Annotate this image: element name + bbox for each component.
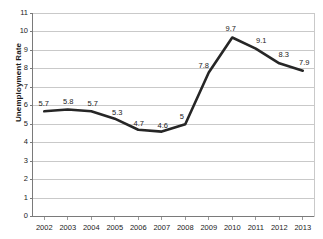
y-axis-tick-label: 2	[6, 174, 28, 183]
y-axis-tick-label: 3	[6, 156, 28, 165]
data-point-label: 7.9	[294, 58, 314, 67]
data-point-label: 5.7	[34, 99, 54, 108]
chart-plot-area	[0, 0, 323, 239]
data-point-label: 7.8	[194, 61, 214, 70]
data-point-label: 9.1	[251, 36, 271, 45]
y-axis-tick-label: 6	[6, 100, 28, 109]
unemployment-rate-line-chart: Unemployment Rate 01234567891011 2002200…	[0, 0, 323, 239]
data-point-label: 4.7	[129, 119, 149, 128]
data-point-label: 9.7	[221, 24, 241, 33]
y-axis-tick-label: 0	[6, 211, 28, 220]
x-axis-tick-label: 2013	[288, 223, 318, 232]
data-point-label: 4.6	[153, 121, 173, 130]
y-axis-tick-label: 10	[6, 26, 28, 35]
y-axis-tick-label: 5	[6, 119, 28, 128]
data-point-label: 5.3	[107, 108, 127, 117]
y-axis-tick-label: 9	[6, 45, 28, 54]
y-axis-tick-label: 11	[6, 8, 28, 17]
data-point-label: 5	[172, 112, 192, 121]
y-axis-tick-label: 7	[6, 82, 28, 91]
data-point-label: 8.3	[274, 50, 294, 59]
y-axis-tick-label: 8	[6, 63, 28, 72]
data-point-label: 5.8	[58, 97, 78, 106]
y-axis-tick-label: 4	[6, 137, 28, 146]
data-point-label: 5.7	[83, 99, 103, 108]
y-axis-tick-label: 1	[6, 193, 28, 202]
